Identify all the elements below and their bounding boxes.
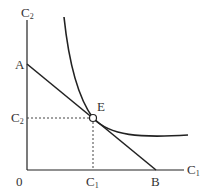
c2-value-label: C2 [11,110,24,126]
y-axis-label: C2 [21,5,34,21]
point-b-label: B [151,174,160,189]
diagram-canvas: C2 C1 0 A B E C2 C1 [0,0,203,196]
indifference-curve [64,17,188,136]
point-e-label: E [97,99,105,114]
origin-label: 0 [16,174,23,189]
tangency-point-e [90,115,97,122]
point-a-label: A [15,57,25,72]
c1-value-label: C1 [86,174,99,190]
x-axis-label: C1 [187,162,200,178]
